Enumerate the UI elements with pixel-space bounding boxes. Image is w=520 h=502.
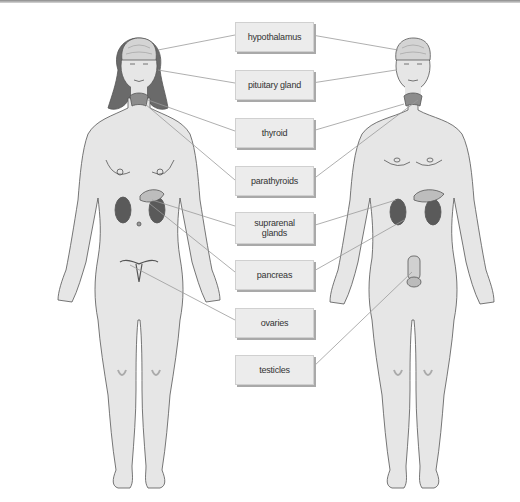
- label-text: ovaries: [261, 318, 289, 328]
- male-figure: [330, 38, 494, 488]
- label-text: pancreas: [257, 270, 292, 280]
- label-text: hypothalamus: [248, 32, 302, 42]
- male-brain: [396, 38, 431, 60]
- female-kidney-left: [115, 197, 131, 223]
- label-text: thyroid: [262, 128, 288, 138]
- male-kidney-left: [390, 199, 406, 225]
- label-pancreas: pancreas: [235, 260, 314, 290]
- label-text: testicles: [259, 365, 290, 375]
- female-body: [58, 98, 220, 488]
- male-kidney-right: [425, 199, 441, 225]
- label-suprarenal-glands: suprarenal glands: [235, 212, 314, 244]
- label-text: suprarenal glands: [251, 218, 299, 238]
- label-parathyroids: parathyroids: [235, 166, 314, 196]
- label-ovaries: ovaries: [235, 308, 314, 338]
- label-pituitary-gland: pituitary gland: [235, 70, 314, 100]
- male-testicles: [408, 256, 420, 280]
- label-testicles: testicles: [235, 355, 314, 385]
- label-text: parathyroids: [251, 176, 298, 186]
- label-hypothalamus: hypothalamus: [235, 22, 314, 52]
- female-figure: [58, 38, 220, 488]
- label-thyroid: thyroid: [235, 118, 314, 148]
- male-body: [330, 98, 494, 488]
- label-text: pituitary gland: [248, 80, 301, 90]
